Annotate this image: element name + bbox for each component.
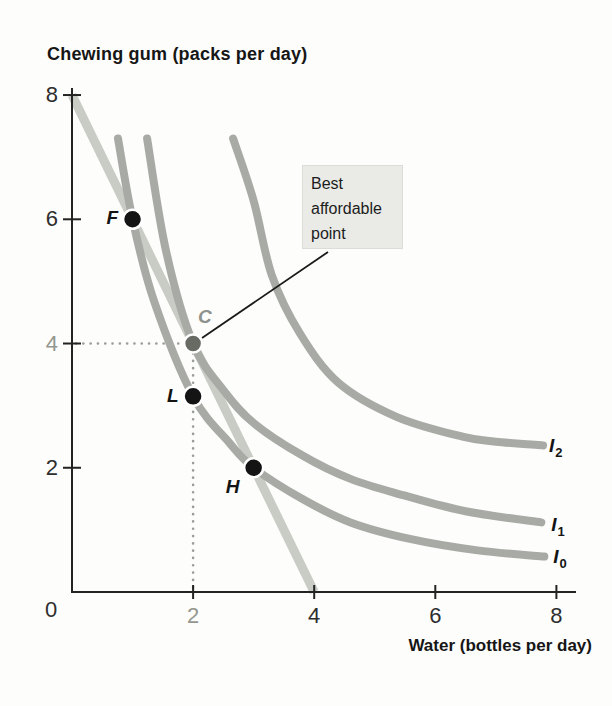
curve-label-I2: I2 (549, 435, 563, 459)
curve-label-main: I (553, 546, 558, 567)
x-tick-label-8: 8 (541, 603, 571, 629)
curve-label-subscript: 1 (558, 524, 565, 539)
y-tick-label-8: 8 (24, 82, 58, 108)
x-axis-title: Water (bottles per day) (330, 636, 592, 656)
x-tick-label-2: 2 (178, 603, 208, 629)
x-tick-label-6: 6 (420, 603, 450, 629)
point-dot-L (184, 387, 203, 406)
indifference-curve-figure: Chewing gum (packs per day) 246802468FCL… (0, 0, 612, 706)
x-tick-label-4: 4 (299, 603, 329, 629)
curve-label-main: I (551, 514, 556, 535)
curve-label-subscript: 0 (560, 556, 567, 571)
indifference-curve-chart (0, 0, 612, 706)
curve-label-subscript: 2 (555, 445, 562, 460)
point-dot-F (123, 210, 142, 229)
y-tick-label-4: 4 (24, 331, 58, 357)
curve-label-I1: I1 (551, 514, 565, 538)
point-label-H: H (226, 476, 240, 498)
point-dot-H (244, 458, 263, 477)
point-label-F: F (107, 207, 119, 229)
dotted-guide-lines (76, 344, 193, 589)
best-affordable-point-callout: Best affordable point (302, 165, 403, 249)
curve-label-main: I (549, 435, 554, 456)
curve-label-I0: I0 (553, 546, 567, 570)
origin-label: 0 (36, 597, 66, 623)
y-tick-label-2: 2 (24, 455, 58, 481)
callout-text: Best affordable point (311, 175, 382, 242)
point-dot-C (184, 335, 202, 353)
point-label-L: L (167, 385, 179, 407)
point-label-C: C (198, 306, 212, 328)
y-tick-label-6: 6 (24, 206, 58, 232)
